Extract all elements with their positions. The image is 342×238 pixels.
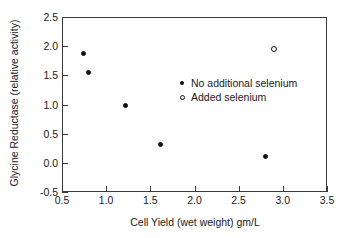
y-axis-tick-label: 0.5: [32, 128, 58, 140]
x-axis-tick-label: 1.5: [135, 194, 165, 206]
y-axis-tick-mark: [62, 134, 68, 135]
y-axis-tick-mark: [62, 46, 68, 47]
y-axis-tick-mark: [62, 163, 68, 164]
x-axis-tick-mark: [62, 186, 63, 192]
x-axis-tick-label: 1.0: [91, 194, 121, 206]
data-point: [263, 154, 268, 159]
x-axis-tick-label: 3.0: [268, 194, 298, 206]
x-axis-tick-label: 3.5: [312, 194, 342, 206]
legend-marker-glyph: [180, 81, 184, 85]
y-axis-tick-mark: [62, 192, 68, 193]
chart-legend: No additional seleniumAdded selenium: [176, 76, 297, 104]
y-axis-tick-mark: [62, 17, 68, 18]
y-axis-tick-label: 0.0: [32, 157, 58, 169]
x-axis-tick-mark: [106, 186, 107, 192]
x-axis-tick-mark: [239, 186, 240, 192]
legend-label: No additional selenium: [188, 77, 297, 89]
y-axis-tick-label: 1.0: [32, 99, 58, 111]
legend-entry: No additional selenium: [176, 76, 297, 90]
data-point: [271, 46, 277, 52]
data-point: [81, 51, 86, 56]
y-axis-tick-label: 1.5: [32, 69, 58, 81]
x-axis-tick-mark: [150, 186, 151, 192]
filled-circle-icon: [176, 81, 188, 85]
open-circle-icon: [176, 95, 188, 100]
y-axis-label: Glycine Reductase (relative activity): [8, 8, 22, 198]
y-axis-tick-label: 2.0: [32, 40, 58, 52]
x-axis-tick-mark: [283, 186, 284, 192]
x-axis-tick-label: 0.5: [47, 194, 77, 206]
x-axis-label: Cell Yield (wet weight) gm/L: [62, 216, 328, 228]
legend-label: Added selenium: [188, 91, 266, 103]
x-axis-tick-label: 2.5: [224, 194, 254, 206]
legend-marker-glyph: [180, 95, 185, 100]
x-axis-tick-mark: [195, 186, 196, 192]
legend-entry: Added selenium: [176, 90, 297, 104]
scatter-chart-figure: Glycine Reductase (relative activity) -0…: [0, 0, 342, 238]
x-axis-tick-mark: [327, 186, 328, 192]
x-axis-tick-label: 2.0: [180, 194, 210, 206]
plot-area-frame: [62, 17, 327, 192]
y-axis-tick-mark: [62, 105, 68, 106]
y-axis-tick-label: 2.5: [32, 11, 58, 23]
y-axis-tick-mark: [62, 75, 68, 76]
data-point: [86, 70, 91, 75]
